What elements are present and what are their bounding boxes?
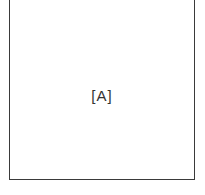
figure-panel-box: [A] xyxy=(9,0,195,180)
panel-label: [A] xyxy=(10,87,194,104)
